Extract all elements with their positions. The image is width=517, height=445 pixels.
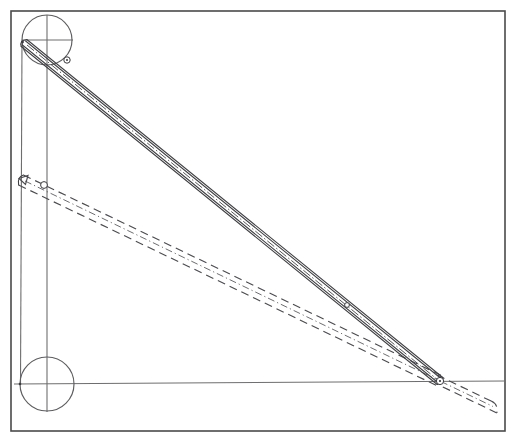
displaced-link-centerline [25, 181, 438, 380]
pivot-markers [19, 41, 444, 386]
primary-link-centerline [27, 45, 438, 380]
upper-rod-pivot-dot [66, 59, 68, 61]
primary-link-solid [21, 40, 443, 385]
displaced-link-edge-upper [23, 175, 442, 376]
construction-lines [14, 15, 505, 412]
left-vertical-edge-line [21, 41, 23, 384]
primary-link-edge-lower [21, 47, 437, 385]
mechanism-svg [0, 0, 517, 445]
primary-link-edge-upper [27, 40, 443, 378]
primary-link-inner-upper [26, 41, 442, 379]
diagram-canvas [0, 0, 517, 445]
lower-left-pivot-dot [19, 383, 22, 386]
displaced-rod-pivot-ring [41, 182, 48, 189]
extension-link-centerline [441, 382, 493, 407]
mid-rod-ring [345, 303, 350, 308]
upper-left-pivot-dot [21, 41, 24, 44]
primary-link-inner-lower [22, 45, 438, 383]
displaced-link-dashed [18, 175, 442, 386]
right-slider-pivot-dot [439, 380, 441, 382]
